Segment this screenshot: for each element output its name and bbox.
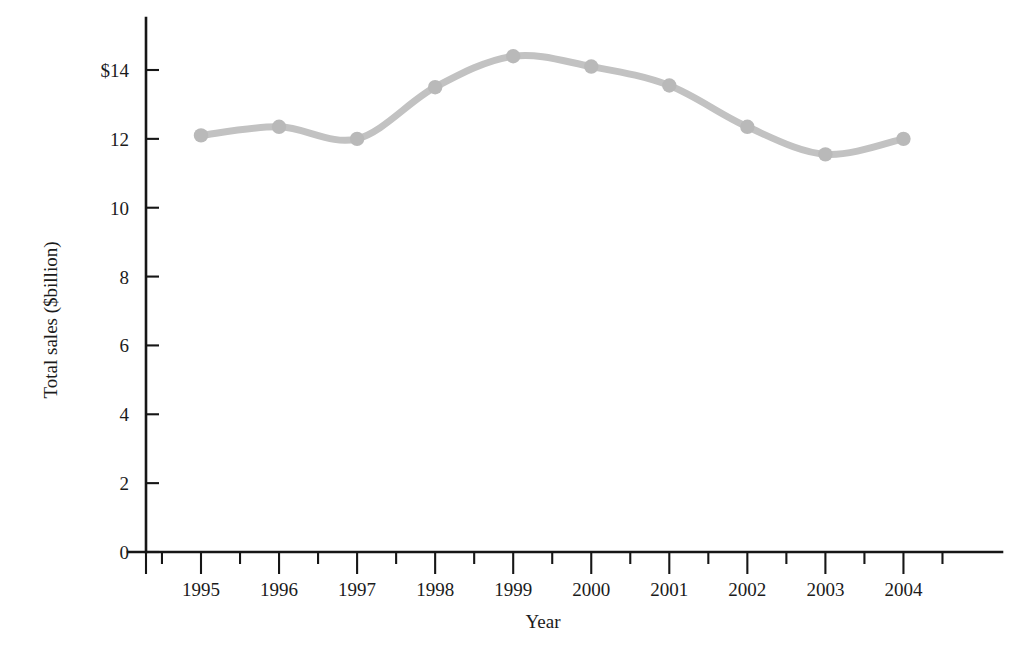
y-tick-label-0: 0 — [120, 542, 130, 563]
x-tick-label-1996: 1996 — [260, 579, 298, 600]
x-tick-label-2003: 2003 — [806, 579, 844, 600]
x-axis-title: Year — [525, 611, 561, 632]
y-tick-label-14: $14 — [101, 60, 130, 81]
y-tick-label-4: 4 — [120, 404, 130, 425]
y-tick-label-8: 8 — [120, 267, 130, 288]
y-tick-label-2: 2 — [120, 473, 130, 494]
x-axis-tick-labels: 1995199619971998199920002001200220032004 — [182, 579, 923, 600]
y-tick-label-12: 12 — [110, 129, 129, 150]
x-tick-label-1999: 1999 — [494, 579, 532, 600]
x-tick-label-2000: 2000 — [572, 579, 610, 600]
x-tick-label-1995: 1995 — [182, 579, 220, 600]
y-axis-title: Total sales ($billion) — [40, 242, 62, 399]
x-tick-label-2002: 2002 — [728, 579, 766, 600]
data-point-2002 — [740, 120, 754, 134]
data-point-2001 — [662, 78, 676, 92]
data-point-1998 — [428, 80, 442, 94]
chart-canvas: 024681012$14 199519961997199819992000200… — [0, 0, 1021, 665]
line-chart: 024681012$14 199519961997199819992000200… — [0, 0, 1021, 665]
data-point-1995 — [194, 128, 208, 142]
y-axis-ticks: 024681012$14 — [101, 60, 160, 563]
x-tick-label-1998: 1998 — [416, 579, 454, 600]
data-point-2004 — [896, 132, 910, 146]
x-tick-label-2001: 2001 — [650, 579, 688, 600]
data-point-2000 — [584, 59, 598, 73]
x-tick-label-1997: 1997 — [338, 579, 376, 600]
data-point-2003 — [818, 147, 832, 161]
data-point-1999 — [506, 49, 520, 63]
y-tick-label-6: 6 — [120, 335, 130, 356]
series-line-total-sales — [201, 55, 903, 154]
x-axis-ticks — [146, 552, 942, 574]
series-markers — [194, 49, 911, 162]
data-point-1997 — [350, 132, 364, 146]
y-tick-label-10: 10 — [110, 198, 129, 219]
data-point-1996 — [272, 120, 286, 134]
x-tick-label-2004: 2004 — [884, 579, 923, 600]
